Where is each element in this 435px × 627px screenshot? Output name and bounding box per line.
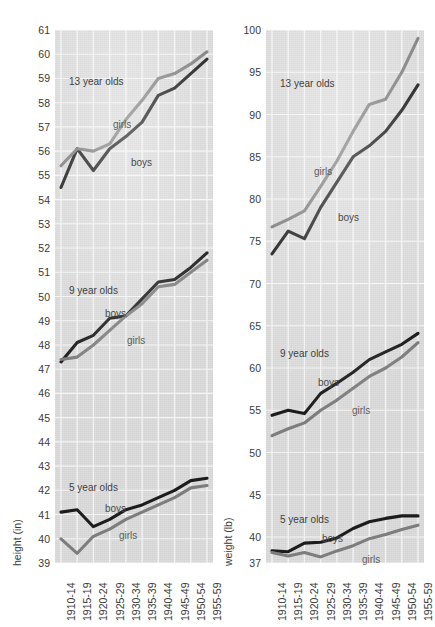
group-label: 9 year olds xyxy=(280,348,329,359)
y-axis-tick-label: 60 xyxy=(249,363,261,374)
x-axis-tick-label: 1930-34 xyxy=(130,582,142,621)
x-axis-tick-label: 1920-24 xyxy=(308,582,320,621)
series-line xyxy=(272,333,418,415)
y-axis-tick-label: 55 xyxy=(38,170,50,181)
y-axis-tick-label: 56 xyxy=(38,146,50,157)
y-axis-tick-label: 60 xyxy=(38,49,50,60)
y-axis-tick-label: 53 xyxy=(38,219,50,230)
y-axis-tick-label: 43 xyxy=(38,461,50,472)
y-axis-tick-label: 85 xyxy=(249,152,261,163)
y-axis-tick-label: 70 xyxy=(249,278,261,289)
series-label-girls: girls xyxy=(127,335,145,346)
x-axis-tick-label: 1950-54 xyxy=(406,582,418,621)
series-label-girls: girls xyxy=(113,119,131,130)
y-axis-tick-label: 55 xyxy=(249,405,261,416)
y-axis-tick-label: 45 xyxy=(38,412,50,423)
x-axis-tick-label: 1915-19 xyxy=(81,582,93,621)
series-label-boys: boys xyxy=(131,157,152,168)
y-axis-tick-label: 40 xyxy=(38,534,50,545)
y-axis-tick-label: 41 xyxy=(38,509,50,520)
series-line xyxy=(272,85,418,254)
y-axis-tick-label: 50 xyxy=(38,291,50,302)
y-axis-tick-label: 39 xyxy=(38,558,50,569)
y-axis-tick-label: 65 xyxy=(249,321,261,332)
x-axis-tick-label: 1940-44 xyxy=(373,582,385,621)
y-axis-tick-label: 49 xyxy=(38,315,50,326)
series-label-girls: girls xyxy=(362,554,380,565)
y-axis-tick-label: 40 xyxy=(249,532,261,543)
group-label: 13 year olds xyxy=(69,76,123,87)
series-line xyxy=(272,525,418,557)
x-axis-tick-label: 1950-54 xyxy=(195,582,207,621)
y-axis-tick-label: 44 xyxy=(38,437,50,448)
x-axis-tick-label: 1920-24 xyxy=(97,582,109,621)
y-axis-tick-label: 61 xyxy=(38,25,50,36)
x-axis-tick-label: 1910-14 xyxy=(276,582,288,621)
y-axis-tick-label: 57 xyxy=(38,122,50,133)
x-axis-tick-label: 1935-39 xyxy=(357,582,369,621)
y-axis-tick-label: 52 xyxy=(38,243,50,254)
weight-axis-title: weight (lb) xyxy=(222,518,234,566)
x-axis-tick-label: 1925-29 xyxy=(325,582,337,621)
x-axis-tick-label: 1945-49 xyxy=(390,582,402,621)
series-line xyxy=(61,486,207,554)
weight-series-svg xyxy=(266,30,424,563)
x-axis-tick-label: 1955-59 xyxy=(422,582,434,621)
y-axis-tick-label: 54 xyxy=(38,194,50,205)
height-axis-title: height (in) xyxy=(11,519,23,566)
y-axis-tick-label: 46 xyxy=(38,388,50,399)
group-label: 13 year olds xyxy=(280,78,334,89)
group-label: 9 year olds xyxy=(69,285,118,296)
x-axis-tick-label: 1935-39 xyxy=(146,582,158,621)
series-label-girls: girls xyxy=(314,166,332,177)
series-label-boys: boys xyxy=(105,503,126,514)
y-axis-tick-label: 51 xyxy=(38,267,50,278)
weight-plot-area xyxy=(266,30,424,563)
series-label-boys: boys xyxy=(318,377,339,388)
series-label-boys: boys xyxy=(105,308,126,319)
y-axis-tick-label: 80 xyxy=(249,194,261,205)
series-label-girls: girls xyxy=(352,405,370,416)
y-axis-tick-label: 58 xyxy=(38,97,50,108)
y-axis-tick-label: 48 xyxy=(38,340,50,351)
y-axis-tick-label: 59 xyxy=(38,73,50,84)
weight-chart-panel: 37404550556065707580859095100 1910-14191… xyxy=(217,0,435,627)
group-label: 5 year olds xyxy=(280,514,329,525)
y-axis-tick-label: 90 xyxy=(249,109,261,120)
x-axis-tick-label: 1945-49 xyxy=(179,582,191,621)
y-axis-tick-label: 45 xyxy=(249,490,261,501)
x-axis-tick-label: 1940-44 xyxy=(162,582,174,621)
x-axis-tick-label: 1930-34 xyxy=(341,582,353,621)
height-chart-panel: 3940414243444546474849505152535455565758… xyxy=(0,0,218,627)
series-label-girls: girls xyxy=(119,530,137,541)
y-axis-tick-label: 95 xyxy=(249,67,261,78)
series-label-boys: boys xyxy=(338,212,359,223)
group-label: 5 year olds xyxy=(69,482,118,493)
x-axis-tick-label: 1915-19 xyxy=(292,582,304,621)
y-axis-tick-label: 100 xyxy=(243,25,261,36)
x-axis-tick-label: 1925-29 xyxy=(114,582,126,621)
y-axis-tick-label: 50 xyxy=(249,447,261,458)
chart-figure: 3940414243444546474849505152535455565758… xyxy=(0,0,435,627)
y-axis-tick-label: 37 xyxy=(249,558,261,569)
y-axis-tick-label: 47 xyxy=(38,364,50,375)
y-axis-tick-label: 75 xyxy=(249,236,261,247)
y-axis-tick-label: 42 xyxy=(38,485,50,496)
series-label-boys: boys xyxy=(322,533,343,544)
x-axis-tick-label: 1910-14 xyxy=(65,582,77,621)
series-line xyxy=(61,52,207,166)
